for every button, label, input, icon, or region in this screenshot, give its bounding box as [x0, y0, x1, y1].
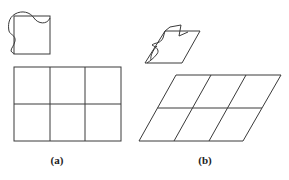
panel-b [139, 25, 281, 141]
panel-a-deformed-outline [9, 12, 50, 54]
panel-b-label: (b) [198, 154, 211, 166]
panel-a-small-square [14, 16, 50, 54]
figure-canvas [0, 0, 289, 180]
panel-a-label: (a) [51, 154, 64, 166]
panel-a [9, 12, 121, 141]
